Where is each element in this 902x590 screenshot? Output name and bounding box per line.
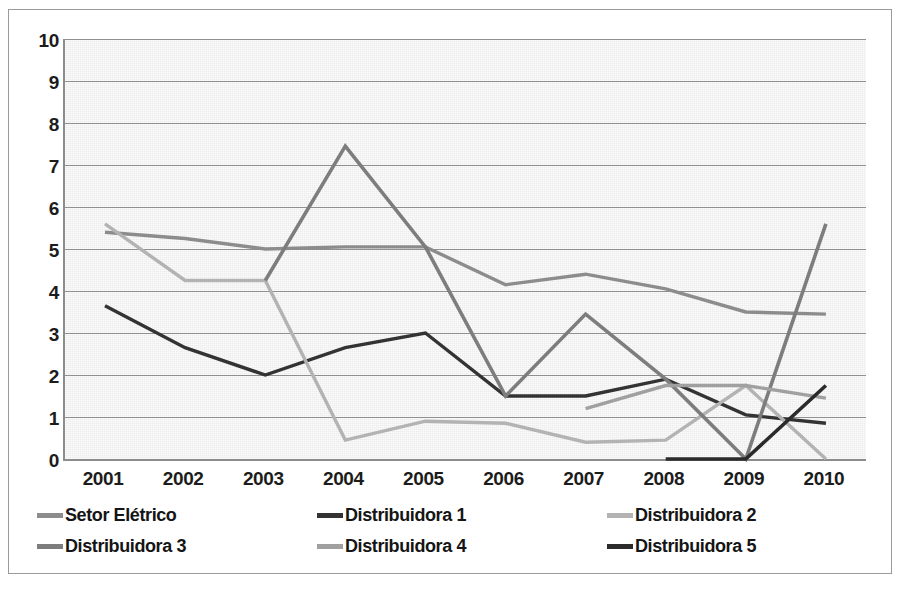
x-axis-tick-2002: 2002 xyxy=(148,468,218,490)
series-line-setor-elétrico xyxy=(105,232,826,314)
plot-area xyxy=(63,39,866,461)
y-axis-tick-3: 3 xyxy=(21,325,59,344)
legend-item-distribuidora-1[interactable]: Distribuidora 1 xyxy=(317,500,607,530)
x-axis-tick-2001: 2001 xyxy=(68,468,138,490)
legend-row: Distribuidora 3Distribuidora 4Distribuid… xyxy=(37,531,865,561)
chart-card: 012345678910 200120022003200420052006200… xyxy=(8,9,892,574)
x-axis-tick-2008: 2008 xyxy=(629,468,699,490)
legend-label: Distribuidora 5 xyxy=(635,536,756,557)
y-axis-tick-4: 4 xyxy=(21,283,59,302)
legend-row: Setor ElétricoDistribuidora 1Distribuido… xyxy=(37,500,865,530)
y-axis-tick-5: 5 xyxy=(21,241,59,260)
plot-region: 012345678910 200120022003200420052006200… xyxy=(9,10,893,480)
legend-item-distribuidora-2[interactable]: Distribuidora 2 xyxy=(607,500,865,530)
legend-line-swatch-icon xyxy=(37,544,63,549)
x-axis-tick-2005: 2005 xyxy=(388,468,458,490)
y-axis-tick-6: 6 xyxy=(21,199,59,218)
legend-line-swatch-icon xyxy=(317,544,343,549)
legend-line-swatch-icon xyxy=(317,513,343,518)
x-axis-tick-2003: 2003 xyxy=(228,468,298,490)
legend-line-swatch-icon xyxy=(607,513,633,518)
series-line-distribuidora-2 xyxy=(105,224,826,459)
y-axis-tick-1: 1 xyxy=(21,409,59,428)
legend-item-setor-elétrico[interactable]: Setor Elétrico xyxy=(37,500,317,530)
legend-label: Setor Elétrico xyxy=(65,505,176,526)
legend-label: Distribuidora 3 xyxy=(65,536,186,557)
legend-item-distribuidora-5[interactable]: Distribuidora 5 xyxy=(607,531,865,561)
x-axis-tick-2004: 2004 xyxy=(308,468,378,490)
chart-legend: Setor ElétricoDistribuidora 1Distribuido… xyxy=(37,500,865,564)
legend-line-swatch-icon xyxy=(37,513,63,518)
y-axis-tick-8: 8 xyxy=(21,115,59,134)
y-axis-tick-0: 0 xyxy=(21,451,59,470)
x-axis-tick-2007: 2007 xyxy=(549,468,619,490)
legend-label: Distribuidora 4 xyxy=(345,536,466,557)
legend-item-distribuidora-3[interactable]: Distribuidora 3 xyxy=(37,531,317,561)
y-axis-tick-labels: 012345678910 xyxy=(21,32,59,453)
x-axis-tick-2010: 2010 xyxy=(789,468,859,490)
legend-label: Distribuidora 1 xyxy=(345,505,466,526)
legend-item-distribuidora-4[interactable]: Distribuidora 4 xyxy=(317,531,607,561)
y-axis-tick-10: 10 xyxy=(21,31,59,50)
y-axis-tick-7: 7 xyxy=(21,157,59,176)
series-lines xyxy=(65,39,866,459)
x-axis-tick-labels: 2001200220032004200520062007200820092010 xyxy=(63,468,868,496)
x-axis-tick-2009: 2009 xyxy=(709,468,779,490)
y-axis-tick-9: 9 xyxy=(21,73,59,92)
x-axis-tick-2006: 2006 xyxy=(469,468,539,490)
y-axis-tick-2: 2 xyxy=(21,367,59,386)
legend-label: Distribuidora 2 xyxy=(635,505,756,526)
legend-line-swatch-icon xyxy=(607,544,633,549)
